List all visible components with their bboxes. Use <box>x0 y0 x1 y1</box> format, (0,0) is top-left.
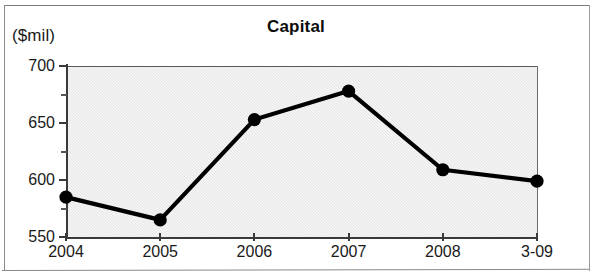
x-axis-tick <box>348 233 350 241</box>
y-axis-tick-label: 700 <box>0 57 55 75</box>
x-axis-tick <box>159 233 161 241</box>
y-axis-minor-tick <box>61 151 67 153</box>
x-axis-tick-label: 3-09 <box>502 243 572 261</box>
chart-figure: ($mil) Capital 700650600550 200420052006… <box>0 0 592 280</box>
chart-title: Capital <box>0 17 592 37</box>
x-axis-tick-label: 2006 <box>219 243 289 261</box>
x-axis-tick <box>442 233 444 241</box>
page-frame-bottom-border <box>2 269 590 271</box>
y-axis-tick <box>59 65 67 67</box>
x-axis-line <box>65 237 538 239</box>
x-axis-tick-label: 2005 <box>125 243 195 261</box>
plot-right-border <box>537 66 538 238</box>
x-axis-tick <box>65 233 67 241</box>
y-axis-minor-tick <box>61 94 67 96</box>
y-axis-tick-label: 650 <box>0 114 55 132</box>
x-axis-tick-label: 2008 <box>408 243 478 261</box>
x-axis-tick-label: 2004 <box>31 243 101 261</box>
page-frame-top-border <box>4 5 590 6</box>
page-frame-right-border <box>589 5 590 271</box>
plot-top-border <box>66 66 538 67</box>
x-axis-tick <box>253 233 255 241</box>
y-axis-tick <box>59 179 67 181</box>
y-axis-tick <box>59 122 67 124</box>
y-axis-minor-tick <box>61 208 67 210</box>
x-axis-tick <box>536 233 538 241</box>
y-axis-tick-label: 600 <box>0 171 55 189</box>
x-axis-tick-label: 2007 <box>314 243 384 261</box>
plot-area <box>66 66 537 237</box>
